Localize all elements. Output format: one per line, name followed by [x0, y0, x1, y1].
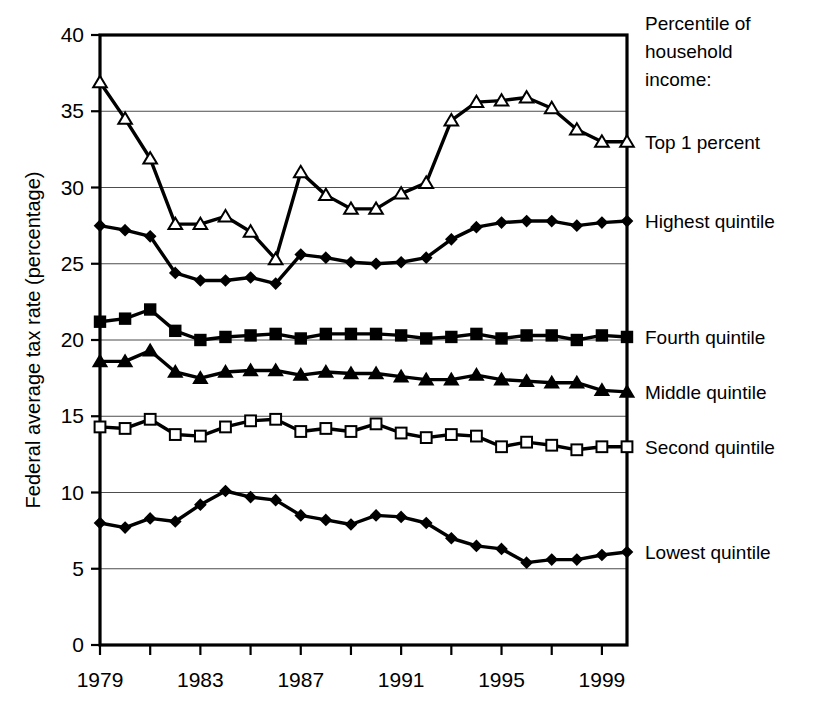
data-point [120, 423, 131, 434]
data-point [170, 429, 181, 440]
data-point [320, 329, 331, 340]
legend-entry-highest-quintile: Highest quintile [645, 211, 775, 232]
chart-background [0, 0, 813, 714]
legend-entry-fourth-quintile: Fourth quintile [645, 327, 765, 348]
data-point [371, 418, 382, 429]
data-point [270, 414, 281, 425]
data-point [421, 333, 432, 344]
data-point [571, 444, 582, 455]
legend-entry-middle-quintile: Middle quintile [645, 382, 766, 403]
data-point [195, 431, 206, 442]
data-point [421, 432, 432, 443]
data-point [396, 330, 407, 341]
x-tick-label-1979: 1979 [77, 668, 124, 691]
y-tick-label-0: 0 [72, 633, 84, 656]
data-point [622, 332, 633, 343]
x-tick-label-1991: 1991 [378, 668, 425, 691]
legend-entry-second-quintile: Second quintile [645, 437, 775, 458]
legend-title-line-1: household [645, 41, 733, 62]
data-point [446, 332, 457, 343]
data-point [346, 329, 357, 340]
data-point [571, 335, 582, 346]
y-tick-label-10: 10 [61, 481, 84, 504]
chart-figure: 0510152025303540 19791983198719911995199… [0, 0, 813, 714]
tax-rate-line-chart: 0510152025303540 19791983198719911995199… [0, 0, 813, 714]
data-point [471, 329, 482, 340]
data-point [521, 437, 532, 448]
y-tick-label-25: 25 [61, 252, 84, 275]
data-point [320, 423, 331, 434]
data-point [597, 330, 608, 341]
data-point [295, 426, 306, 437]
y-tick-label-40: 40 [61, 23, 84, 46]
data-point [95, 316, 106, 327]
legend-entry-top-1-percent: Top 1 percent [645, 132, 761, 153]
y-tick-label-20: 20 [61, 328, 84, 351]
data-point [220, 332, 231, 343]
x-tick-label-1995: 1995 [478, 668, 525, 691]
data-point [521, 330, 532, 341]
data-point [245, 330, 256, 341]
data-point [245, 415, 256, 426]
y-tick-label-30: 30 [61, 176, 84, 199]
legend-title-line-2: income: [645, 69, 712, 90]
y-tick-label-5: 5 [72, 557, 84, 580]
data-point [622, 441, 633, 452]
legend-entry-lowest-quintile: Lowest quintile [645, 542, 771, 563]
data-point [270, 329, 281, 340]
legend-title-line-0: Percentile of [645, 13, 751, 34]
data-point [496, 333, 507, 344]
x-tick-label-1999: 1999 [579, 668, 626, 691]
data-point [295, 333, 306, 344]
data-point [95, 422, 106, 433]
data-point [597, 441, 608, 452]
x-tick-label-1983: 1983 [177, 668, 224, 691]
y-axis-title: Federal average tax rate (percentage) [22, 172, 44, 509]
data-point [145, 304, 156, 315]
data-point [220, 422, 231, 433]
data-point [446, 429, 457, 440]
data-point [195, 335, 206, 346]
y-tick-label-15: 15 [61, 404, 84, 427]
data-point [471, 431, 482, 442]
x-tick-label-1987: 1987 [277, 668, 324, 691]
data-point [170, 325, 181, 336]
data-point [346, 426, 357, 437]
data-point [546, 440, 557, 451]
data-point [120, 313, 131, 324]
data-point [145, 414, 156, 425]
data-point [396, 428, 407, 439]
y-tick-label-35: 35 [61, 99, 84, 122]
data-point [371, 329, 382, 340]
data-point [546, 330, 557, 341]
data-point [496, 441, 507, 452]
